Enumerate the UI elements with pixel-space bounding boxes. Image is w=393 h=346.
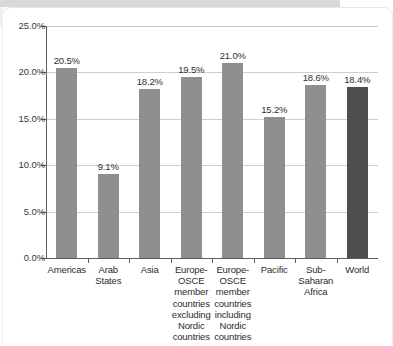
bar — [305, 85, 326, 258]
category-label: World — [337, 264, 379, 275]
bar — [222, 63, 243, 258]
bar — [347, 87, 368, 258]
bar-value-label: 20.5% — [37, 55, 97, 66]
bar-value-label: 15.2% — [244, 104, 304, 115]
x-tick-mark — [171, 259, 172, 263]
bar-value-label: 21.0% — [203, 50, 263, 61]
y-tick-label: 10.0% — [1, 159, 45, 170]
bar-value-label: 18.2% — [120, 76, 180, 87]
category-label: Europe- OSCE member countries including … — [212, 264, 254, 342]
bar-chart: 0.0%5.0%10.0%15.0%20.0%25.0% 20.5%9.1%18… — [0, 0, 393, 346]
category-label: Asia — [129, 264, 171, 275]
x-tick-mark — [254, 259, 255, 263]
bar — [264, 117, 285, 258]
y-tick-label: 15.0% — [1, 113, 45, 124]
y-tick-label: 20.0% — [1, 66, 45, 77]
category-label: Sub- Saharan Africa — [295, 264, 337, 298]
category-label: Pacific — [254, 264, 296, 275]
bar — [181, 77, 202, 258]
bar — [139, 89, 160, 258]
x-tick-mark — [88, 259, 89, 263]
category-label: Arab States — [88, 264, 130, 286]
bar-value-label: 19.5% — [161, 64, 221, 75]
bar-value-label: 9.1% — [78, 161, 138, 172]
category-label: Europe- OSCE member countries excluding … — [171, 264, 213, 342]
x-tick-mark — [212, 259, 213, 263]
x-tick-mark — [337, 259, 338, 263]
bar — [56, 68, 77, 258]
x-tick-mark — [129, 259, 130, 263]
x-tick-mark — [295, 259, 296, 263]
bar — [98, 174, 119, 258]
category-label: Americas — [46, 264, 88, 275]
y-tick-label: 5.0% — [1, 206, 45, 217]
bar-value-label: 18.4% — [327, 74, 387, 85]
y-tick-label: 0.0% — [1, 252, 45, 263]
y-tick-label: 25.0% — [1, 20, 45, 31]
